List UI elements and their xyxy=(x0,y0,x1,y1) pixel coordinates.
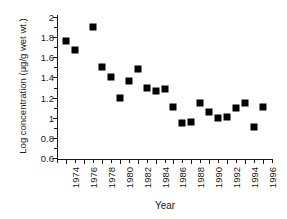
x-tick-mark xyxy=(57,160,58,163)
x-tick-mark xyxy=(254,160,255,163)
y-tick-mark xyxy=(54,47,57,48)
data-point xyxy=(206,108,213,115)
data-point xyxy=(98,64,105,71)
x-tick-label: 1984 xyxy=(160,167,171,201)
x-tick-label: 1986 xyxy=(177,167,188,201)
x-tick-mark xyxy=(156,160,157,164)
data-point xyxy=(242,99,249,106)
scatter-chart: Log concentration (µg/g wet wt.) 21.81.6… xyxy=(0,0,287,219)
x-tick-mark xyxy=(263,160,264,164)
y-tick-mark xyxy=(54,128,57,129)
x-tick-label: 1980 xyxy=(124,167,135,201)
data-point xyxy=(71,47,78,54)
x-tick-label: 1978 xyxy=(106,167,117,201)
y-tick-label: 0.8 xyxy=(41,132,54,143)
x-tick-label: 1974 xyxy=(70,167,81,201)
y-tick-mark xyxy=(54,88,57,89)
data-point xyxy=(143,84,150,91)
data-point xyxy=(152,87,159,94)
x-tick-label: 1992 xyxy=(231,167,242,201)
plot-area: 21.81.61.41.210.80.6 xyxy=(57,17,272,158)
x-tick-mark xyxy=(245,160,246,164)
x-tick-label: 1976 xyxy=(88,167,99,201)
x-tick-label: 1982 xyxy=(142,167,153,201)
x-tick-mark xyxy=(191,160,192,164)
x-tick-mark xyxy=(93,160,94,163)
x-tick-mark xyxy=(84,160,85,164)
data-point xyxy=(161,85,168,92)
data-point xyxy=(251,123,258,130)
y-tick-label: 1.2 xyxy=(41,92,54,103)
y-tick-mark xyxy=(54,67,57,68)
data-point xyxy=(89,24,96,31)
x-tick-label: 1996 xyxy=(267,167,278,201)
y-tick-label: 1 xyxy=(49,112,54,123)
data-point xyxy=(215,114,222,121)
x-tick-mark xyxy=(227,160,228,164)
data-point xyxy=(197,99,204,106)
data-point xyxy=(179,119,186,126)
data-point xyxy=(107,74,114,81)
x-tick-mark xyxy=(66,160,67,164)
x-tick-mark xyxy=(200,160,201,163)
x-tick-mark xyxy=(147,160,148,163)
data-point xyxy=(134,66,141,73)
y-tick-label: 1.8 xyxy=(41,32,54,43)
y-axis-title: Log concentration (µg/g wet wt.) xyxy=(16,6,30,166)
data-point xyxy=(62,38,69,45)
y-tick-label: 2 xyxy=(49,12,54,23)
y-tick-label: 1.6 xyxy=(41,52,54,63)
y-tick-mark xyxy=(54,27,57,28)
x-tick-mark xyxy=(111,160,112,163)
x-tick-mark xyxy=(102,160,103,164)
x-tick-mark xyxy=(236,160,237,163)
x-axis-title: Year xyxy=(57,200,273,211)
x-tick-mark xyxy=(138,160,139,164)
x-tick-mark xyxy=(272,160,273,163)
x-tick-label: 1988 xyxy=(195,167,206,201)
x-tick-mark xyxy=(173,160,174,164)
data-point xyxy=(233,104,240,111)
y-tick-mark xyxy=(54,148,57,149)
x-tick-mark xyxy=(120,160,121,164)
data-point xyxy=(125,78,132,85)
x-tick-mark xyxy=(165,160,166,163)
data-point xyxy=(188,118,195,125)
data-point xyxy=(260,103,267,110)
y-tick-label: 0.6 xyxy=(41,153,54,164)
data-point xyxy=(116,94,123,101)
x-tick-mark xyxy=(209,160,210,164)
x-tick-label: 1990 xyxy=(213,167,224,201)
x-tick-mark xyxy=(129,160,130,163)
y-tick-label: 1.4 xyxy=(41,72,54,83)
x-tick-mark xyxy=(218,160,219,163)
data-point xyxy=(224,113,231,120)
x-tick-label: 1994 xyxy=(249,167,260,201)
y-tick-mark xyxy=(54,108,57,109)
x-tick-mark xyxy=(182,160,183,163)
x-tick-mark xyxy=(75,160,76,163)
data-point xyxy=(170,103,177,110)
